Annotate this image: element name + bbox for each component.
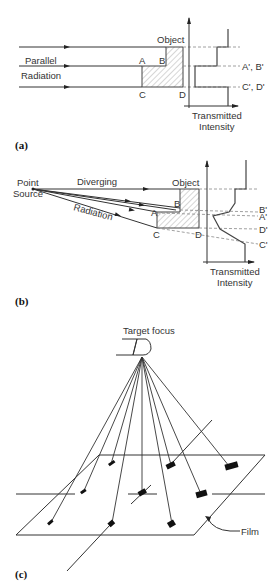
object-shape	[142, 47, 183, 87]
label-A: A	[139, 55, 146, 66]
label-D: D	[179, 89, 186, 100]
arrow-icon	[64, 64, 70, 68]
label-object: Object	[172, 177, 200, 188]
label-film: Film	[241, 526, 259, 537]
intensity-profile	[195, 29, 228, 106]
panel-c: Target focus	[15, 325, 265, 581]
axis-label: Transmitted	[192, 110, 242, 121]
label-object: Object	[157, 34, 185, 45]
label-A: A	[151, 207, 158, 218]
label-target-focus: Target focus	[123, 325, 175, 336]
arrow-icon	[64, 85, 70, 89]
label-diverging: Diverging	[77, 176, 117, 187]
radiography-diagram: Parallel Radiation Object A B C D A', B'…	[0, 0, 280, 582]
panel-a: Parallel Radiation Object A B C D A', B'…	[15, 17, 265, 152]
label-parallel: Parallel	[25, 55, 57, 66]
xray-tube-icon	[116, 339, 151, 355]
label-proj-d: D'	[259, 224, 268, 235]
label-proj-a: A'	[259, 211, 267, 222]
caption-c: (c)	[15, 568, 28, 581]
label-radiation: Radiation	[21, 70, 61, 81]
label-B: B	[174, 198, 180, 209]
label-C: C	[139, 89, 146, 100]
panel-b: Point Source Diverging Radiation Object …	[13, 160, 268, 308]
axis-label: Transmitted	[210, 266, 260, 277]
label-source: Source	[13, 188, 43, 199]
arrow-icon	[64, 45, 70, 49]
label-proj-cd: C', D'	[242, 81, 265, 92]
label-D: D	[195, 229, 202, 240]
label-C: C	[153, 229, 160, 240]
label-proj-ab: A', B'	[242, 61, 264, 72]
caption-b: (b)	[15, 295, 29, 308]
film-pointer	[208, 519, 240, 531]
label-proj-c: C'	[259, 239, 268, 250]
label-B: B	[159, 55, 165, 66]
axis-label-2: Intensity	[199, 121, 235, 132]
label-radiation: Radiation	[72, 201, 114, 222]
label-point: Point	[17, 177, 39, 188]
axis-label-2: Intensity	[217, 277, 253, 288]
caption-a: (a)	[15, 139, 28, 152]
